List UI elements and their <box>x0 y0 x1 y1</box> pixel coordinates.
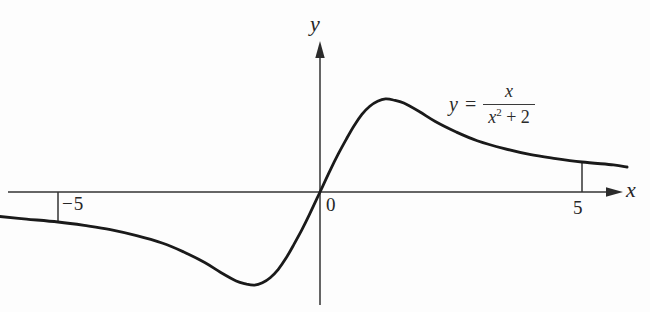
fraction-denominator: x2 + 2 <box>483 104 535 128</box>
equation-equals: = <box>465 93 476 116</box>
equation-fraction: x x2 + 2 <box>483 81 535 128</box>
function-plot-figure: y x 0 −5 5 y = x x2 + 2 <box>0 0 650 312</box>
x-axis-label: x <box>626 179 636 201</box>
equation-label: y = x x2 + 2 <box>449 81 535 128</box>
equation-lhs: y <box>449 93 458 116</box>
x-tick-label-neg5: −5 <box>62 194 84 213</box>
y-axis-arrow-icon <box>315 41 324 58</box>
fraction-numerator: x <box>503 81 515 104</box>
plot-area <box>0 0 650 312</box>
denominator-rest: + 2 <box>502 107 530 127</box>
denominator-base: x <box>488 107 496 127</box>
x-axis-arrow-icon <box>606 187 623 196</box>
x-tick-label-pos5: 5 <box>573 198 583 217</box>
y-axis-label: y <box>310 13 320 35</box>
origin-label: 0 <box>326 195 336 214</box>
